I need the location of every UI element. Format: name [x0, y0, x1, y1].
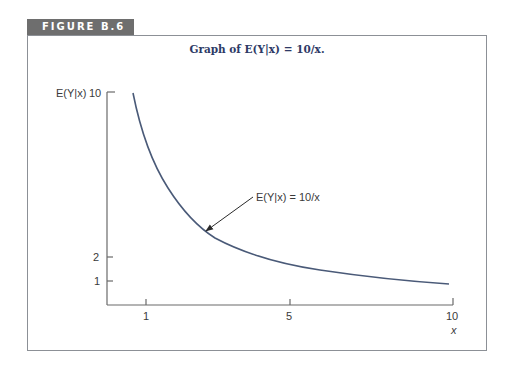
annotation-arrow: [206, 197, 253, 231]
annotation-label: E(Y|x) = 10/x: [256, 191, 320, 203]
x-tick-label-1: 1: [143, 310, 149, 322]
y-axis-label: E(Y|x): [56, 87, 86, 99]
x-axis-label: x: [450, 324, 457, 336]
curve-10-over-x: [133, 93, 449, 284]
x-tick-label-10: 10: [446, 310, 458, 322]
y-tick-label-2: 2: [93, 251, 99, 263]
plot-area: E(Y|x) 10 2 1 1 5 10 x E(Y|x) = 10/x: [0, 0, 513, 371]
x-tick-label-5: 5: [286, 310, 292, 322]
y-tick-label-1: 1: [94, 275, 100, 287]
y-tick-label-10: 10: [89, 87, 101, 99]
